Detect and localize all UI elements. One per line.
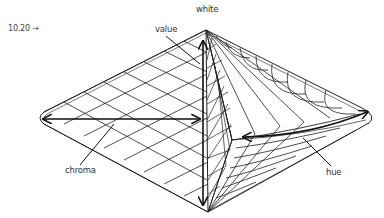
hue-leader-line <box>303 138 331 166</box>
white-label: white <box>196 4 218 14</box>
right-face-grid <box>206 30 372 212</box>
hue-axis-arrow <box>244 112 367 137</box>
value-label: value <box>155 24 177 34</box>
color-solid-diagram <box>0 0 384 218</box>
left-face-grid <box>40 30 208 212</box>
figure-number: 10.20 → <box>8 24 39 33</box>
chroma-label: chroma <box>65 165 96 175</box>
hue-label: hue <box>326 167 341 177</box>
value-leader-line <box>166 36 200 64</box>
